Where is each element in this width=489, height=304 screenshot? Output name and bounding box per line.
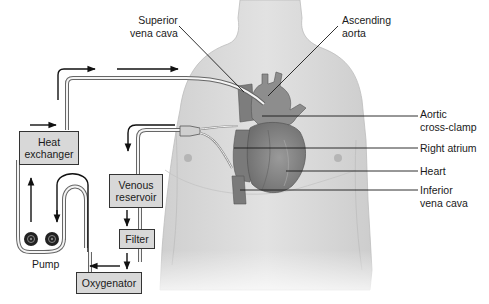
label-line: cross-clamp xyxy=(420,121,477,134)
bypass-diagram: Superior vena cava Ascending aorta Aorti… xyxy=(0,0,489,304)
label-line: vena cava xyxy=(130,27,178,40)
label-superior-vena-cava: Superior vena cava xyxy=(138,14,178,39)
box-label: Filter xyxy=(125,233,148,246)
venous-reservoir-box: Venous reservoir xyxy=(109,174,163,208)
box-label-line: Heat xyxy=(24,136,73,149)
label-line: Inferior xyxy=(420,184,468,197)
box-label: Oxygenator xyxy=(82,277,136,290)
filter-box: Filter xyxy=(119,229,155,249)
label-line: vena cava xyxy=(420,197,468,210)
heat-exchanger-box: Heat exchanger xyxy=(19,131,79,165)
label-line: Aortic xyxy=(420,108,477,121)
label-line: Superior xyxy=(138,14,178,27)
label-inferior-vena-cava: Inferior vena cava xyxy=(420,184,468,209)
label-right-atrium: Right atrium xyxy=(420,142,477,155)
label-ascending-aorta: Ascending aorta xyxy=(342,14,391,39)
box-label-line: reservoir xyxy=(116,191,157,204)
box-label-line: Venous xyxy=(116,179,157,192)
label-line: Ascending xyxy=(342,14,391,27)
oxygenator-box: Oxygenator xyxy=(76,272,142,294)
label-pump: Pump xyxy=(32,258,59,271)
label-line: aorta xyxy=(342,27,391,40)
label-heart: Heart xyxy=(420,165,446,178)
label-aortic-cross-clamp: Aortic cross-clamp xyxy=(420,108,477,133)
box-label-line: exchanger xyxy=(24,148,73,161)
pump-rollers-icon xyxy=(24,232,59,246)
